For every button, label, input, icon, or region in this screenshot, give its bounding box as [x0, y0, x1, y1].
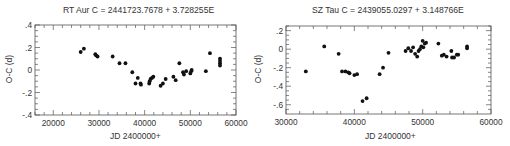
- plot-frame: [286, 26, 491, 114]
- data-point: [208, 51, 212, 55]
- data-point: [304, 69, 308, 73]
- data-point: [378, 72, 382, 76]
- y-tick-label: -.2: [273, 63, 283, 73]
- x-tick-label: 30000: [87, 118, 110, 128]
- data-point: [456, 53, 460, 57]
- data-point: [164, 77, 168, 81]
- data-point: [111, 55, 115, 59]
- data-point: [134, 82, 138, 86]
- data-point: [409, 49, 413, 53]
- data-point: [387, 51, 391, 55]
- data-point: [79, 50, 83, 54]
- data-point: [452, 56, 456, 60]
- x-tick-label: 50000: [411, 117, 434, 127]
- data-point: [337, 52, 341, 56]
- data-point: [130, 70, 134, 74]
- data-point: [184, 69, 188, 73]
- x-tick-label: 30000: [274, 117, 297, 127]
- data-point: [424, 41, 428, 45]
- data-point: [151, 75, 155, 79]
- y-tick-label: 0: [278, 44, 283, 54]
- data-point: [436, 42, 440, 46]
- x-tick-label: 60000: [479, 117, 502, 127]
- y-tick-label: .2: [25, 43, 32, 53]
- data-point: [161, 82, 165, 86]
- x-tick-label: 20000: [42, 118, 65, 128]
- data-point: [348, 71, 352, 75]
- y-tick-label: .2: [276, 26, 283, 36]
- y-tick-label: -.4: [22, 110, 32, 120]
- data-point: [177, 61, 181, 65]
- data-point: [322, 44, 326, 48]
- y-tick-label: -.2: [22, 88, 32, 98]
- y-tick-label: .4: [25, 20, 32, 30]
- data-point: [406, 46, 410, 50]
- x-tick-label: 50000: [179, 118, 202, 128]
- data-point: [190, 68, 194, 72]
- data-point: [136, 76, 140, 80]
- y-tick-label: -.6: [273, 100, 283, 110]
- y-tick-label: 0: [27, 65, 32, 75]
- data-point: [361, 99, 365, 103]
- data-point: [445, 55, 449, 59]
- data-point: [355, 72, 359, 76]
- data-point: [465, 46, 469, 50]
- data-point: [82, 47, 86, 51]
- data-point: [449, 49, 453, 53]
- y-tick-label: -.4: [273, 81, 283, 91]
- data-point: [404, 49, 408, 53]
- data-point: [124, 61, 128, 65]
- x-tick-label: 40000: [133, 118, 156, 128]
- data-point: [411, 45, 415, 49]
- data-point: [421, 45, 425, 49]
- data-point: [365, 96, 369, 100]
- data-point: [218, 64, 222, 68]
- data-point: [172, 75, 176, 79]
- data-point: [182, 73, 186, 77]
- data-point: [340, 69, 344, 73]
- data-point: [139, 83, 143, 87]
- data-point: [204, 69, 208, 73]
- x-tick-label: 40000: [343, 117, 366, 127]
- data-point: [174, 78, 178, 82]
- data-point: [415, 55, 419, 59]
- plot-canvas: 2000030000400005000060000.4.20-.2-.43000…: [0, 0, 510, 146]
- data-point: [96, 55, 100, 59]
- data-point: [381, 66, 385, 70]
- data-point: [118, 61, 122, 65]
- x-tick-label: 60000: [224, 118, 247, 128]
